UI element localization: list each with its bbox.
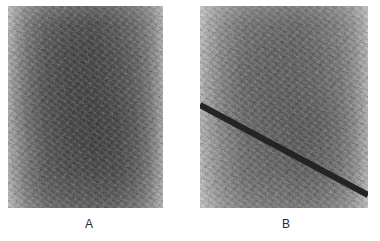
panel-a-vertical-vignette bbox=[8, 6, 163, 208]
panel-b-diagonal-crack-icon bbox=[200, 6, 368, 208]
panel-b-image bbox=[200, 6, 368, 208]
panel-a-image bbox=[8, 6, 163, 208]
figure-root: A B bbox=[0, 0, 380, 241]
panel-a-label: A bbox=[85, 218, 93, 230]
panel-b-label: B bbox=[282, 218, 290, 230]
